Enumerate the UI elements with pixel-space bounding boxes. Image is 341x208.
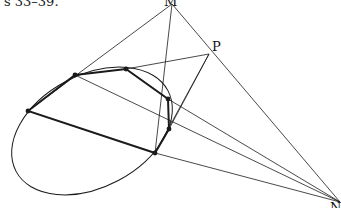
inscribed-hexagon — [28, 69, 169, 153]
geometry-diagram: M P N — [0, 0, 341, 208]
label-M: M — [164, 0, 177, 9]
label-P: P — [212, 39, 221, 54]
label-N: N — [330, 200, 341, 208]
construction-lines — [28, 4, 340, 202]
